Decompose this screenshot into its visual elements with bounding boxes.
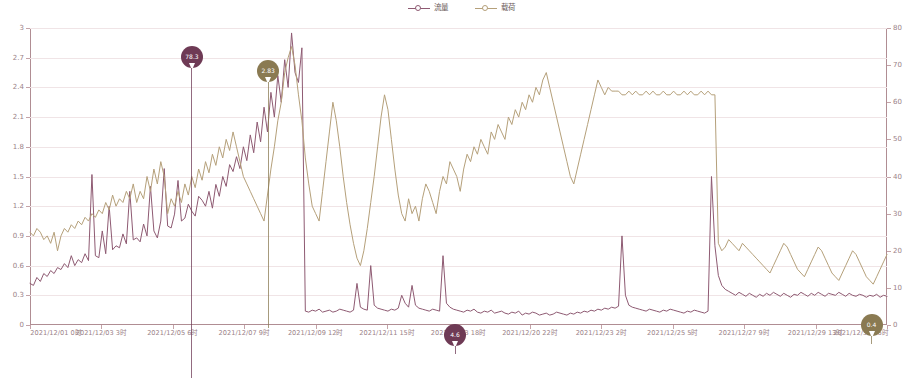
y-label-left: 2.1 — [13, 113, 24, 121]
x-label: 2021/12/27 9时 — [719, 329, 770, 338]
pin-stem — [455, 346, 456, 354]
y-label-right: 70 — [893, 61, 902, 69]
legend-item-liuliang[interactable]: 流量 — [408, 1, 448, 15]
y-tick-right — [887, 288, 891, 289]
y-tick-right — [887, 28, 891, 29]
x-label: 2021/12/05 6时 — [147, 329, 198, 338]
legend-dot — [415, 5, 421, 11]
y-tick-right — [887, 214, 891, 215]
y-tick-right — [887, 139, 891, 140]
y-tick-right — [887, 65, 891, 66]
y-label-right: 30 — [893, 210, 902, 218]
y-label-right: 40 — [893, 173, 902, 181]
x-label: 2021/12/09 12时 — [288, 329, 344, 338]
legend-dot — [482, 5, 488, 11]
series-line-载荷 — [30, 47, 887, 285]
legend-label-zaihe: 载荷 — [501, 3, 515, 13]
y-label-left: 0.9 — [13, 232, 24, 240]
y-label-left: 2.4 — [13, 83, 24, 91]
pin-tail — [452, 340, 458, 347]
legend-item-zaihe[interactable]: 载荷 — [475, 1, 515, 15]
y-tick-right — [887, 177, 891, 178]
x-label: 2021/12/01 0时 — [30, 329, 81, 338]
y-label-left: 1.5 — [13, 173, 24, 181]
y-label-right: 50 — [893, 135, 902, 143]
y-label-left: 1.2 — [13, 202, 24, 210]
y-label-right: 20 — [893, 247, 902, 255]
legend-marker-icon — [475, 3, 497, 13]
legend-marker-icon — [408, 3, 430, 13]
y-label-right: 80 — [893, 24, 902, 32]
x-label: 2021/12/13 18时 — [431, 329, 487, 338]
x-label: 2021/12/11 15时 — [359, 329, 415, 338]
y-label-left: 0.3 — [13, 291, 24, 299]
chart-legend: 流量 载荷 — [0, 0, 923, 16]
x-label: 2021/12/07 9时 — [219, 329, 270, 338]
x-label: 2021/12/20 22时 — [502, 329, 558, 338]
y-label-right: 0 — [893, 321, 897, 329]
y-label-right: 60 — [893, 98, 902, 106]
y-label-left: 3 — [20, 24, 24, 32]
y-label-left: 0.6 — [13, 262, 24, 270]
y-tick-right — [887, 102, 891, 103]
y-label-right: 10 — [893, 284, 902, 292]
x-label: 2021/12/31 16时 — [833, 329, 889, 338]
x-label: 2021/12/03 3时 — [76, 329, 127, 338]
y-label-left: 0 — [20, 321, 24, 329]
legend-label-liuliang: 流量 — [434, 3, 448, 13]
y-label-left: 2.7 — [13, 54, 24, 62]
y-tick-right — [887, 251, 891, 252]
x-label: 2021/12/25 5时 — [647, 329, 698, 338]
y-label-left: 1.8 — [13, 143, 24, 151]
x-label: 2021/12/23 2时 — [576, 329, 627, 338]
plot-area: 00.30.60.91.21.51.82.12.42.73 0102030405… — [30, 28, 887, 325]
series-paths — [30, 28, 887, 325]
